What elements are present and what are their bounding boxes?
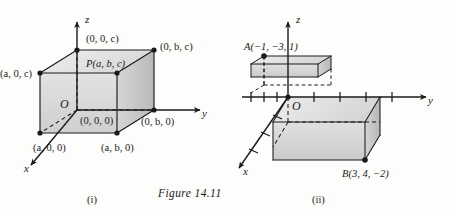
axis-label-x-ii: x	[242, 165, 248, 177]
slab-b-top-face	[273, 97, 380, 122]
slab-a-front-face	[251, 64, 318, 77]
label-top-back-right: (0, b, c)	[160, 41, 193, 53]
axis-label-z: z	[84, 13, 90, 25]
origin-dot-ii	[285, 94, 290, 99]
sub-caption-i: (i)	[87, 194, 97, 206]
label-point-a: A(−1, −3, 1)	[243, 41, 298, 53]
label-point-p: P(a, b, c)	[85, 58, 126, 70]
axis-label-z-ii: z	[295, 13, 301, 25]
label-top-front-left: (a, 0, c)	[0, 68, 33, 80]
sub-caption-ii: (ii)	[312, 194, 325, 206]
figure-14-11: z y x O (0, 0, c) (0, b, c) (a, 0, c) P(…	[0, 0, 449, 215]
origin-label-ii: O	[292, 99, 301, 113]
origin-label: O	[60, 97, 69, 111]
label-x-vertex: (a, 0, 0)	[33, 142, 66, 154]
label-point-b: B(3, 4, −2)	[342, 168, 389, 180]
label-origin-coord: (0, 0, 0)	[80, 115, 114, 127]
slab-b-front-face	[273, 122, 365, 160]
point-a-dot	[261, 53, 267, 59]
label-bottom-front-right: (a, b, 0)	[101, 142, 134, 154]
point-b-dot	[362, 157, 368, 163]
panel-ii-diagram: z y x O A(−1, −3, 1) B(3, 4, −2) (ii)	[230, 0, 449, 215]
label-z-vertex: (0, 0, c)	[86, 33, 119, 45]
label-y-vertex: (0, b, 0)	[141, 116, 175, 128]
figure-caption: Figure 14.11	[157, 187, 222, 200]
axis-label-y: y	[201, 107, 207, 119]
axis-label-y-ii: y	[427, 94, 433, 106]
axis-label-x: x	[23, 162, 29, 174]
